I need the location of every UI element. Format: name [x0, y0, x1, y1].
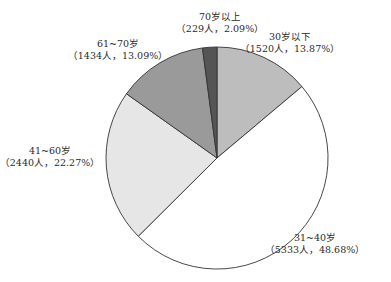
label-under-30-name: 30岁以下 [269, 31, 311, 42]
label-61-70: 61~70岁 （1434人，13.09%） [68, 38, 168, 62]
label-61-70-value: （1434人，13.09%） [68, 50, 168, 62]
label-31-40: 31~40岁 （5333人，48.68%） [265, 232, 365, 256]
label-41-60-value: （2440人，22.27%） [0, 157, 100, 169]
label-under-30-value: （1520人，13.87%） [240, 43, 340, 55]
label-41-60-name: 41~60岁 [29, 145, 71, 156]
label-41-60: 41~60岁 （2440人，22.27%） [0, 145, 100, 169]
label-over-70-value: （229人，2.09%） [176, 23, 264, 35]
label-61-70-name: 61~70岁 [97, 38, 139, 49]
label-over-70-name: 70岁以上 [199, 11, 241, 22]
label-over-70: 70岁以上 （229人，2.09%） [176, 11, 264, 35]
label-31-40-name: 31~40岁 [294, 232, 336, 243]
label-31-40-value: （5333人，48.68%） [265, 244, 365, 256]
